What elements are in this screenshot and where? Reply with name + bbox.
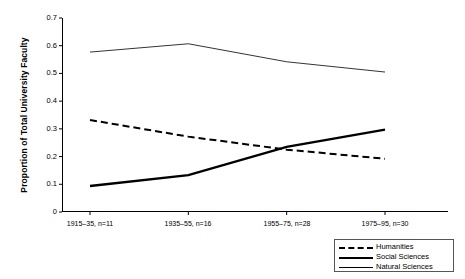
- chart-legend: Humanities Social Sciences Natural Scien…: [334, 239, 454, 272]
- x-tick-label-4: 1975–95, n=30: [330, 219, 440, 228]
- legend-label-humanities: Humanities: [373, 242, 414, 252]
- dashed-line-icon: [339, 242, 373, 252]
- series-line-natural-sciences: [90, 44, 385, 72]
- legend-item-social-sciences: Social Sciences: [339, 252, 453, 262]
- x-tick-label-1: 1915–35, n=11: [35, 219, 145, 228]
- x-tick-label-2: 1935–55, n=16: [133, 219, 243, 228]
- x-axis-tick-marks: [90, 212, 385, 215]
- thick-line-icon: [339, 252, 373, 262]
- series-line-social-sciences: [90, 130, 385, 186]
- chart-figure: Proportion of Total University Faculty 0…: [0, 0, 465, 279]
- legend-item-natural-sciences: Natural Sciences: [339, 262, 453, 272]
- legend-item-humanities: Humanities: [339, 242, 453, 252]
- legend-label-social-sciences: Social Sciences: [373, 252, 429, 262]
- chart-plot-area: [0, 0, 465, 279]
- series-line-humanities: [90, 120, 385, 159]
- x-tick-label-3: 1955–75, n=28: [232, 219, 342, 228]
- y-axis-tick-marks: [59, 18, 62, 212]
- legend-label-natural-sciences: Natural Sciences: [373, 262, 433, 272]
- thin-line-icon: [339, 262, 373, 272]
